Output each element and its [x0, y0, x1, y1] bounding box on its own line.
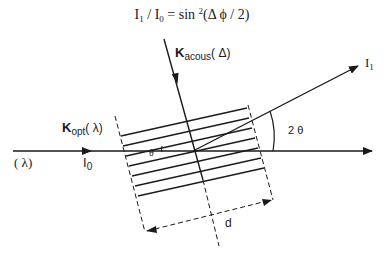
diffracted-beam: [193, 66, 358, 151]
d-arrow-right-icon: [262, 199, 272, 206]
d-label: d: [225, 216, 232, 230]
k-acous-label: Kacous( Δ): [175, 45, 230, 62]
incident-arrow-icon: [82, 147, 92, 155]
theta-label: θ: [149, 147, 154, 158]
k-opt-label: Kopt( λ): [62, 120, 103, 137]
grating-lines: [121, 108, 264, 196]
i1-label: I1: [365, 55, 374, 72]
two-theta-label: 2 θ: [288, 124, 303, 136]
grating-boundaries: [115, 105, 273, 246]
lambda-input-label: ( λ): [14, 155, 32, 170]
d-arrow-left-icon: [146, 226, 157, 233]
two-theta-arc: [270, 111, 274, 151]
i0-label: I0: [83, 155, 93, 172]
acousto-optic-diagram: I1 / I0 = sin 2(Δ ϕ / 2) Kacous( Δ) Kopt…: [0, 0, 384, 261]
equation: I1 / I0 = sin 2(Δ ϕ / 2): [135, 6, 250, 24]
